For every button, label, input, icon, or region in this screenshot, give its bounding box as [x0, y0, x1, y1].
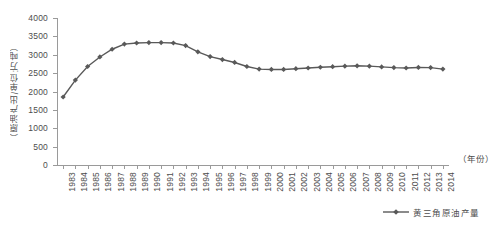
data-point-marker: [428, 65, 433, 70]
data-point-marker: [318, 65, 323, 70]
data-point-marker: [416, 65, 421, 70]
data-point-marker: [269, 67, 274, 72]
legend-marker-icon: [383, 207, 409, 217]
series-line: [63, 43, 443, 97]
data-point-marker: [355, 63, 360, 68]
data-point-marker: [195, 49, 200, 54]
data-point-marker: [183, 43, 188, 48]
data-point-marker: [134, 40, 139, 45]
series-plot: [0, 0, 504, 236]
legend-entry-label: 黄三角原油产量: [413, 206, 480, 218]
data-point-marker: [257, 66, 262, 71]
data-point-marker: [379, 64, 384, 69]
data-point-marker: [367, 64, 372, 69]
data-point-marker: [122, 41, 127, 46]
data-point-marker: [306, 65, 311, 70]
data-point-marker: [244, 64, 249, 69]
chart-legend: 黄三角原油产量: [383, 206, 480, 218]
data-point-marker: [232, 60, 237, 65]
data-point-marker: [281, 67, 286, 72]
data-point-marker: [404, 65, 409, 70]
data-point-marker: [220, 57, 225, 62]
data-point-marker: [391, 65, 396, 70]
data-point-marker: [171, 40, 176, 45]
data-point-marker: [208, 54, 213, 59]
data-point-marker: [293, 66, 298, 71]
data-point-marker: [330, 64, 335, 69]
chart-container: （原油产出/单位:万吨） （年份） 0500100015002000250030…: [0, 0, 504, 236]
data-point-marker: [146, 40, 151, 45]
data-point-marker: [159, 40, 164, 45]
data-point-marker: [342, 64, 347, 69]
data-point-marker: [440, 66, 445, 71]
